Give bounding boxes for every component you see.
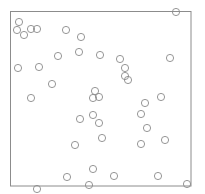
data-point <box>141 99 148 106</box>
data-point <box>166 54 173 61</box>
data-point <box>85 181 92 188</box>
data-point <box>14 64 21 71</box>
data-point <box>71 141 78 148</box>
data-point <box>110 172 117 179</box>
data-point <box>27 94 34 101</box>
data-point <box>20 31 27 38</box>
data-point <box>77 33 84 40</box>
data-point <box>89 165 96 172</box>
data-point <box>143 124 150 131</box>
data-point <box>137 140 144 147</box>
scatter-plot <box>0 0 205 194</box>
data-point <box>137 110 144 117</box>
data-point <box>63 173 70 180</box>
data-point <box>172 8 179 15</box>
data-point <box>33 185 40 192</box>
data-point <box>154 172 161 179</box>
data-point <box>96 51 103 58</box>
data-point <box>62 26 69 33</box>
data-points <box>13 8 190 192</box>
data-point <box>35 63 42 70</box>
data-point <box>48 80 55 87</box>
data-point <box>157 93 164 100</box>
data-point <box>116 55 123 62</box>
data-point <box>76 115 83 122</box>
data-point <box>13 26 20 33</box>
data-point <box>161 136 168 143</box>
data-point <box>98 134 105 141</box>
data-point <box>89 111 96 118</box>
data-point <box>54 52 61 59</box>
data-point <box>121 64 128 71</box>
data-point <box>183 180 190 187</box>
data-point <box>124 76 131 83</box>
data-point <box>95 93 102 100</box>
data-point <box>75 48 82 55</box>
data-point <box>95 119 102 126</box>
data-point <box>33 25 40 32</box>
data-point <box>15 18 22 25</box>
